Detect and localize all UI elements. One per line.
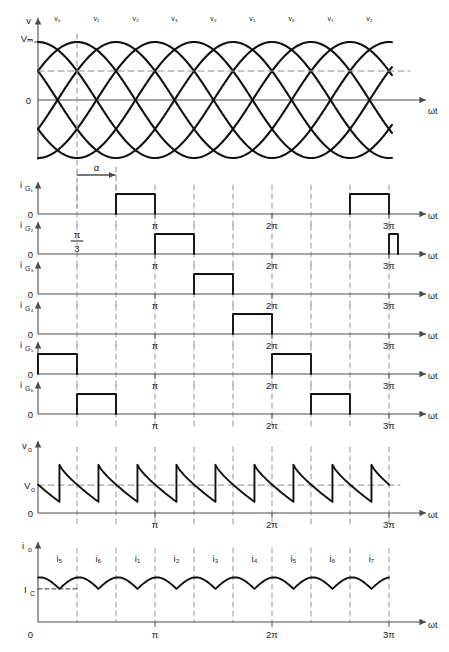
output-current-segment-label: i₆ (329, 553, 335, 564)
gate-x-tick-label: π (152, 420, 159, 431)
io-x-axis-label: ωt (428, 620, 438, 630)
source-voltage-segment-label: v₁ (94, 15, 101, 22)
io-x-tick-label: π (152, 629, 159, 640)
voltage-vm-label: Vₘ (21, 33, 33, 44)
voltage-x-axis-label: ωt (428, 106, 438, 116)
gate-x-axis-label-1: ωt (428, 211, 438, 221)
gate-x-axis-label-3: ωt (428, 291, 438, 301)
source-voltage-segment-label: v₂ (132, 15, 139, 22)
source-voltage-segment-label: v₃ (171, 15, 178, 22)
voltage-zero-label: 0 (26, 95, 31, 106)
waveform-figure: vVₘ0ωtv₆v₁v₂v₃v₄v₅v₆v₁v₂απ3iG₁0π2π3πωtiG… (0, 0, 449, 652)
gate-zero-label-1: 0 (28, 209, 33, 220)
gate-zero-label-6: 0 (28, 409, 33, 420)
gate-x-axis-label-2: ωt (428, 251, 438, 261)
source-voltage-segment-label: v₆ (288, 15, 295, 22)
gate-pulse-6 (77, 394, 116, 414)
vo-x-tick-label: 2π (266, 519, 278, 530)
output-current-segment-label: i₂ (174, 553, 180, 564)
vo-average-sublabel: o (31, 486, 35, 493)
vo-x-tick-label: π (152, 519, 159, 530)
gate-axis-label-3: i (20, 259, 22, 270)
source-voltage-segment-label: v₆ (54, 15, 61, 22)
gate-axis-sublabel-6: G₆ (25, 385, 33, 392)
gate-pulse-2 (155, 234, 194, 254)
gate-axis-label-5: i (20, 339, 22, 350)
gate-pulse-1 (350, 194, 389, 214)
gate-axis-label-6: i (20, 379, 22, 390)
output-current-curve (38, 577, 389, 589)
gate-zero-label-4: 0 (28, 329, 33, 340)
source-voltage-segment-label: v₁ (327, 15, 334, 22)
gate-axis-sublabel-4: G₄ (25, 305, 33, 312)
output-current-segment-label: i₅ (56, 553, 62, 564)
output-current-segment-label: i₅ (290, 553, 296, 564)
io-x-tick-label: 2π (266, 629, 278, 640)
gate-x-tick-label: 3π (383, 420, 395, 431)
io-x-tick-label: 3π (383, 629, 395, 640)
io-axis-sublabel: o (28, 546, 32, 553)
gate-axis-label-2: i (20, 219, 22, 230)
vo-axis-label: v (22, 440, 27, 451)
output-current-segment-label: i₄ (251, 553, 257, 564)
io-zero-label: 0 (28, 629, 33, 640)
gate-axis-sublabel-5: G₅ (25, 345, 33, 352)
gate-pulse-4 (233, 314, 272, 334)
gate-axis-label-1: i (20, 179, 22, 190)
gate-x-axis-label-4: ωt (428, 331, 438, 341)
gate-axis-sublabel-3: G₃ (25, 265, 33, 272)
vo-axis-sublabel: o (28, 446, 32, 453)
figure-canvas: vVₘ0ωtv₆v₁v₂v₃v₄v₅v₆v₁v₂απ3iG₁0π2π3πωtiG… (0, 0, 449, 652)
vo-zero-label: 0 (28, 508, 33, 519)
gate-axis-sublabel-1: G₁ (25, 185, 33, 192)
source-voltage-segment-label: v₅ (249, 15, 256, 22)
gate-pulse-2 (389, 234, 398, 254)
vo-x-tick-label: 3π (383, 519, 395, 530)
gate-zero-label-5: 0 (28, 369, 33, 380)
io-ic-label: I (24, 584, 27, 595)
output-current-segment-label: i₃ (212, 553, 218, 564)
gate-pulse-5 (272, 354, 311, 374)
io-ic-sublabel: C (30, 590, 35, 597)
output-voltage-curve (38, 465, 389, 502)
io-axis-label: i (22, 540, 24, 551)
gate-axis-sublabel-2: G₂ (25, 225, 33, 232)
source-voltage-segment-label: v₂ (366, 15, 373, 22)
gate-axis-label-4: i (20, 299, 22, 310)
vo-average-label: V (24, 480, 31, 491)
gate-pulse-1 (116, 194, 155, 214)
gate-pulse-5 (38, 354, 77, 374)
output-current-segment-label: i₁ (135, 553, 140, 564)
voltage-axis-label: v (26, 15, 31, 26)
output-current-segment-label: i₇ (369, 553, 374, 564)
gate-x-axis-label-6: ωt (428, 411, 438, 421)
gate-zero-label-2: 0 (28, 249, 33, 260)
output-current-segment-label: i₆ (95, 553, 101, 564)
source-voltage-segment-label: v₄ (210, 15, 217, 22)
gate-pulse-3 (194, 274, 233, 294)
alpha-label: α (94, 162, 100, 173)
gate-x-tick-label: 2π (266, 420, 278, 431)
gate-pulse-6 (311, 394, 350, 414)
gate-zero-label-3: 0 (28, 289, 33, 300)
gate-x-axis-label-5: ωt (428, 371, 438, 381)
vo-x-axis-label: ωt (428, 510, 438, 520)
